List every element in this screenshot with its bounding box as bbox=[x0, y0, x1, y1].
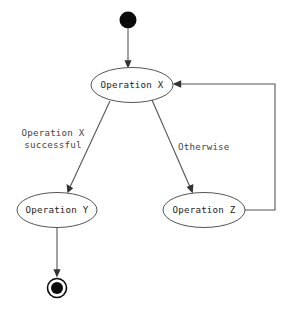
edge-operation-y-to-end bbox=[53, 228, 60, 278]
start-node-circle bbox=[120, 12, 137, 29]
operation-z-node[interactable]: Operation Z bbox=[163, 193, 245, 228]
end-node bbox=[48, 279, 67, 298]
edge-operation-x-to-operation-y-arrowhead bbox=[67, 184, 74, 193]
end-node-inner-circle bbox=[51, 282, 63, 294]
edge-start-to-operation-x bbox=[124, 29, 131, 69]
edge-operation-x-to-operation-z-arrowhead bbox=[187, 184, 194, 193]
operation-x-node[interactable]: Operation X bbox=[91, 68, 173, 103]
operation-y-node[interactable]: Operation Y bbox=[17, 193, 97, 228]
activity-diagram-svg: Operation X Operation Y Operation Z Oper… bbox=[0, 0, 288, 313]
edge-operation-y-to-end-arrowhead bbox=[53, 269, 60, 277]
activity-diagram-canvas: Operation X Operation Y Operation Z Oper… bbox=[0, 0, 288, 313]
guard-label-successful-line2: successful bbox=[24, 139, 81, 150]
edge-operation-z-to-operation-x-arrowhead bbox=[173, 80, 182, 87]
guard-label-successful-line1: Operation X bbox=[21, 127, 84, 138]
operation-x-label: Operation X bbox=[100, 79, 163, 90]
start-node bbox=[120, 12, 137, 29]
guard-label-otherwise: Otherwise bbox=[178, 141, 230, 152]
operation-y-label: Operation Y bbox=[25, 204, 88, 215]
operation-z-label: Operation Z bbox=[172, 204, 235, 215]
